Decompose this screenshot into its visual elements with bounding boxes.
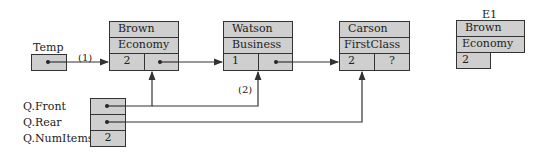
- pointer-dots: [0, 0, 543, 155]
